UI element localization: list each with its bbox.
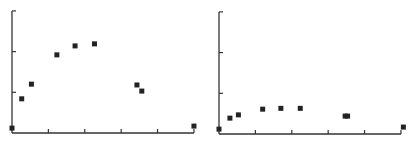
data-point-marker	[134, 82, 139, 87]
data-point-marker	[19, 96, 24, 101]
data-point-marker	[73, 43, 78, 48]
data-point-marker	[260, 107, 265, 112]
left-scatter-panel	[10, 11, 197, 133]
data-point-marker	[278, 106, 283, 111]
data-point-marker	[401, 125, 406, 130]
figure	[0, 0, 411, 145]
data-point-marker	[54, 52, 59, 57]
data-point-marker	[236, 112, 241, 117]
data-point-marker	[298, 106, 303, 111]
data-point-marker	[29, 82, 34, 87]
data-point-marker	[92, 41, 97, 46]
data-point-marker	[139, 89, 144, 94]
data-point-marker	[227, 116, 232, 121]
data-point-marker	[191, 124, 196, 129]
right-scatter-panel	[217, 12, 406, 134]
data-point-marker	[345, 114, 350, 119]
scatter-plots	[0, 0, 411, 145]
data-point-marker	[10, 126, 15, 131]
data-point-marker	[217, 127, 222, 132]
